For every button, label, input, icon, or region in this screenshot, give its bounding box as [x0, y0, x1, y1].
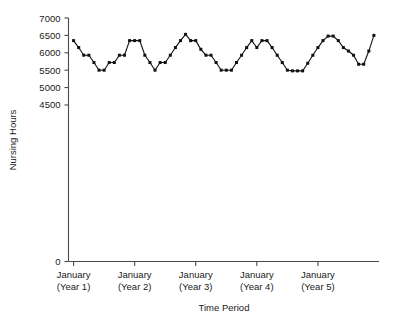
x-category-label-year-5: (Year 5) [301, 281, 334, 292]
data-point [337, 39, 340, 42]
x-category-label-year-1: (Year 1) [57, 281, 90, 292]
data-point [113, 61, 116, 64]
data-point [357, 63, 360, 66]
y-tick-label-6000: 6000 [39, 47, 60, 58]
data-point [230, 69, 233, 72]
y-tick-label-5500: 5500 [39, 65, 60, 76]
y-axis-tick-labels: 0450050005500600065007000 [39, 13, 60, 268]
data-point [169, 54, 172, 57]
y-tick-label-6500: 6500 [39, 30, 60, 41]
data-point [301, 69, 304, 72]
nursing-hours-data-markers [72, 33, 375, 73]
data-point [143, 54, 146, 57]
x-category-label-month-1: January [57, 269, 91, 280]
x-axis-category-labels: January(Year 1)January(Year 2)January(Ye… [57, 269, 335, 292]
data-point [194, 39, 197, 42]
data-point [159, 61, 162, 64]
x-axis-title: Time Period [199, 302, 250, 313]
x-category-label-month-2: January [118, 269, 152, 280]
nursing-hours-line-chart: 0450050005500600065007000 January(Year 1… [0, 0, 401, 322]
data-point [98, 69, 101, 72]
data-point [235, 61, 238, 64]
x-category-label-month-4: January [240, 269, 274, 280]
data-point [352, 54, 355, 57]
nursing-hours-series-line [74, 34, 374, 71]
chart-canvas: 0450050005500600065007000 January(Year 1… [0, 0, 401, 322]
data-point [245, 46, 248, 49]
data-point [276, 54, 279, 57]
data-point [327, 35, 330, 38]
data-point [296, 69, 299, 72]
data-point [103, 69, 106, 72]
data-point [250, 39, 253, 42]
x-category-label-month-3: January [179, 269, 213, 280]
data-point [367, 50, 370, 53]
y-tick-label-5000: 5000 [39, 82, 60, 93]
data-point [240, 54, 243, 57]
data-point [92, 61, 95, 64]
data-point [342, 46, 345, 49]
y-axis-ticks [65, 18, 69, 262]
data-point [154, 69, 157, 72]
data-point [72, 39, 75, 42]
data-point [118, 54, 121, 57]
x-category-label-year-2: (Year 2) [118, 281, 151, 292]
data-point [220, 69, 223, 72]
data-point [77, 46, 80, 49]
x-axis-ticks [74, 262, 318, 267]
x-category-label-month-5: January [301, 269, 335, 280]
data-point [260, 39, 263, 42]
data-point [281, 61, 284, 64]
data-point [347, 50, 350, 53]
data-point [128, 39, 131, 42]
data-point [204, 54, 207, 57]
data-point [372, 34, 375, 37]
data-point [108, 61, 111, 64]
data-point [291, 69, 294, 72]
data-point [123, 54, 126, 57]
data-point [164, 61, 167, 64]
data-point [148, 61, 151, 64]
data-point [179, 39, 182, 42]
data-point [271, 46, 274, 49]
data-point [189, 39, 192, 42]
data-point [311, 54, 314, 57]
data-point [210, 54, 213, 57]
y-tick-label-4500: 4500 [39, 99, 60, 110]
data-point [255, 46, 258, 49]
data-point [316, 46, 319, 49]
data-point [199, 48, 202, 51]
data-point [133, 39, 136, 42]
x-category-label-year-4: (Year 4) [240, 281, 273, 292]
data-point [286, 69, 289, 72]
data-point [306, 62, 309, 65]
data-point [184, 33, 187, 36]
data-point [138, 39, 141, 42]
x-category-label-year-3: (Year 3) [179, 281, 212, 292]
data-point [87, 54, 90, 57]
data-point [332, 35, 335, 38]
data-point [225, 69, 228, 72]
data-point [362, 63, 365, 66]
data-point [82, 54, 85, 57]
data-point [266, 39, 269, 42]
data-point [322, 39, 325, 42]
data-point [215, 61, 218, 64]
y-tick-label-7000: 7000 [39, 13, 60, 24]
data-point [174, 46, 177, 49]
y-tick-label-0: 0 [55, 256, 60, 267]
y-axis-title: Nursing Hours [7, 109, 18, 170]
